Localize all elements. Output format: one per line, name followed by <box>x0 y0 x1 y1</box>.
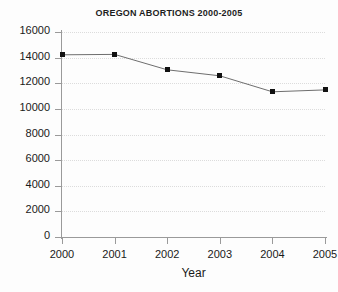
data-point-marker <box>165 67 170 72</box>
x-axis-title: Year <box>62 266 325 280</box>
data-point-marker <box>217 73 222 78</box>
data-point-marker <box>112 52 117 57</box>
data-point-marker <box>60 52 65 57</box>
data-series-line <box>0 0 338 292</box>
data-point-marker <box>270 89 275 94</box>
data-point-marker <box>323 87 328 92</box>
line-chart: OREGON ABORTIONS 2000-2005 0200040006000… <box>0 0 338 292</box>
